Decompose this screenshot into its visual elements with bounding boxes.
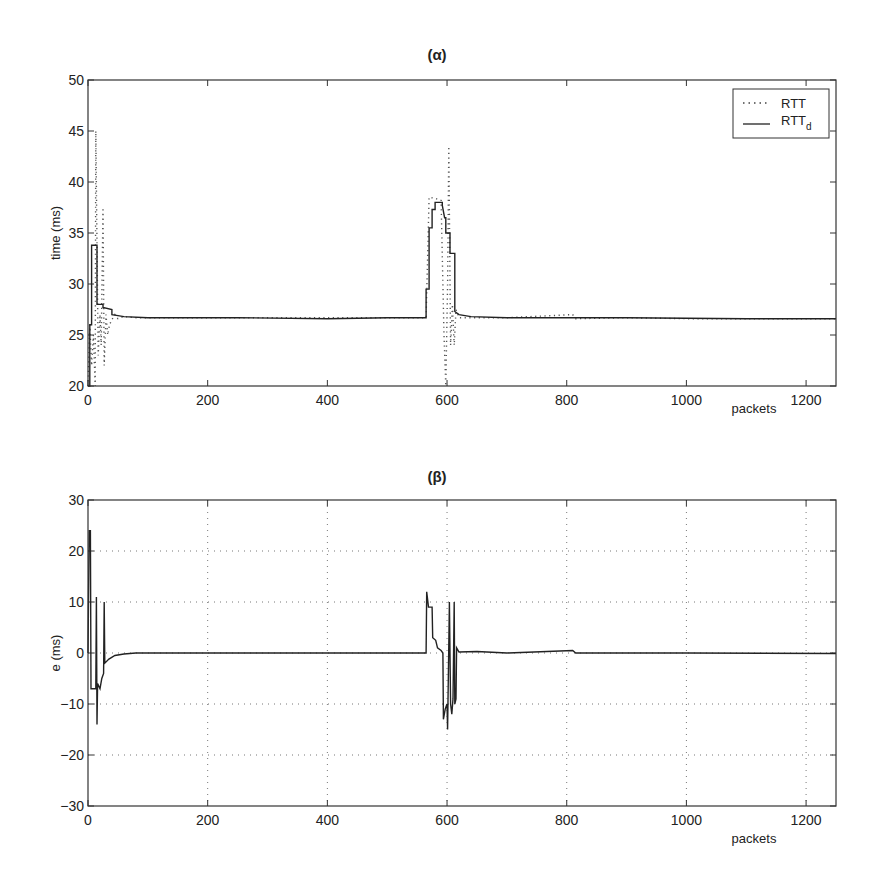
chart-title: (α): [427, 46, 446, 63]
plot-frame: [88, 80, 836, 386]
x-tick-label: 0: [84, 812, 92, 828]
x-axis-label: packets: [732, 831, 777, 846]
x-tick-label: 200: [196, 392, 220, 408]
y-tick-label: 0: [76, 645, 84, 661]
y-tick-label: −10: [60, 696, 84, 712]
y-tick-label: 25: [68, 327, 84, 343]
x-tick-labels: 020040060080010001200: [84, 392, 822, 408]
y-tick-label: 50: [68, 72, 84, 88]
legend-label-rttd-sub: d: [806, 121, 812, 132]
legend-label-rttd-main: RTT: [781, 113, 806, 128]
y-tick-label: 10: [68, 594, 84, 610]
series-rtt-d: [88, 202, 836, 386]
x-tick-label: 800: [555, 812, 579, 828]
series-rtt: [88, 131, 836, 386]
y-axis-label: time (ms): [48, 206, 63, 260]
x-tick-label: 1200: [791, 392, 822, 408]
legend-label-rtt: RTT: [781, 96, 806, 111]
chart-title: (β): [427, 468, 446, 485]
y-tick-label: 20: [68, 378, 84, 394]
y-tick-label: −20: [60, 747, 84, 763]
data-series: [88, 531, 836, 730]
x-tick-label: 200: [196, 812, 220, 828]
figure: (α) 020040060080010001200 20253035404550…: [0, 0, 887, 887]
y-tick-label: −30: [60, 798, 84, 814]
y-tick-label: 20: [68, 543, 84, 559]
y-tick-label: 45: [68, 123, 84, 139]
x-tick-label: 0: [84, 392, 92, 408]
x-tick-label: 800: [555, 392, 579, 408]
y-tick-label: 35: [68, 225, 84, 241]
y-tick-label: 40: [68, 174, 84, 190]
y-tick-labels: 20253035404550: [68, 72, 84, 394]
chart-alpha: (α) 020040060080010001200 20253035404550…: [48, 46, 836, 416]
series-e: [88, 531, 836, 730]
x-axis-label: packets: [732, 401, 777, 416]
y-tick-label: 30: [68, 492, 84, 508]
x-tick-label: 1200: [791, 812, 822, 828]
x-tick-labels: 020040060080010001200: [84, 812, 822, 828]
x-tick-label: 400: [316, 812, 340, 828]
legend: RTT RTTd: [733, 89, 829, 138]
data-series: [88, 131, 836, 386]
y-tick-labels: −30−20−100102030: [60, 492, 84, 814]
y-tick-label: 30: [68, 276, 84, 292]
chart-beta: (β) 020040060080010001200 −30−20−1001020…: [48, 468, 836, 846]
x-tick-label: 600: [435, 392, 459, 408]
axis-ticks: [88, 80, 836, 386]
x-tick-label: 1000: [671, 812, 702, 828]
x-tick-label: 600: [435, 812, 459, 828]
y-axis-label: e (ms): [48, 635, 63, 672]
x-tick-label: 400: [316, 392, 340, 408]
x-tick-label: 1000: [671, 392, 702, 408]
